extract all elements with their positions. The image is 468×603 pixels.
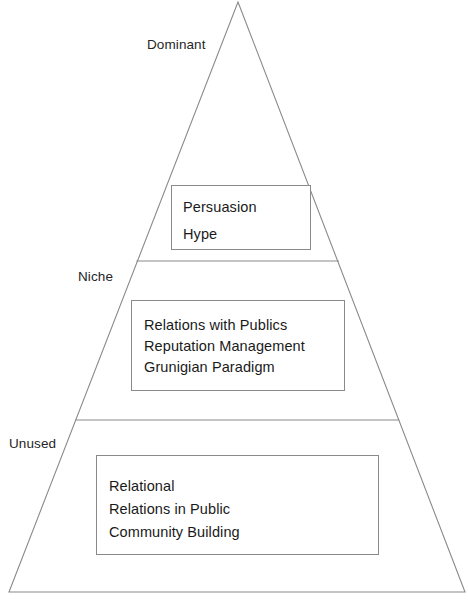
tier-content-item: Grunigian Paradigm <box>144 357 344 378</box>
tier-content-item: Persuasion <box>183 194 310 221</box>
tier-content-list-unused: Relational Relations in Public Community… <box>97 475 378 544</box>
tier-content-box-niche: Relations with Publics Reputation Manage… <box>131 300 345 391</box>
tier-content-box-unused: Relational Relations in Public Community… <box>96 455 379 555</box>
tier-content-item: Hype <box>183 221 310 248</box>
tier-content-item: Relational <box>109 475 378 498</box>
tier-content-item: Relations in Public <box>109 498 378 521</box>
pyramid-diagram: Dominant Niche Unused Persuasion Hype Re… <box>0 0 468 603</box>
tier-label-unused: Unused <box>9 436 56 452</box>
tier-content-list-dominant: Persuasion Hype <box>172 194 310 248</box>
tier-content-list-niche: Relations with Publics Reputation Manage… <box>132 315 344 378</box>
tier-content-item: Relations with Publics <box>144 315 344 336</box>
tier-content-item: Community Building <box>109 521 378 544</box>
tier-content-box-dominant: Persuasion Hype <box>171 185 311 250</box>
tier-label-niche: Niche <box>78 269 113 285</box>
tier-label-dominant: Dominant <box>147 37 206 53</box>
tier-content-item: Reputation Management <box>144 336 344 357</box>
